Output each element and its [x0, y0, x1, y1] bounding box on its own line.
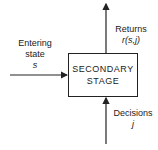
input-label-line1: Entering — [12, 38, 58, 49]
box-line1: SECONDARY — [72, 63, 133, 75]
output-label-line1: Returns — [108, 24, 154, 35]
input-label-line2: state — [12, 49, 58, 60]
decision-label: Decisions j — [108, 108, 158, 130]
decision-symbol: j — [108, 119, 158, 130]
box-line2: STAGE — [87, 75, 119, 87]
input-symbol: s — [12, 60, 58, 71]
secondary-stage-box: SECONDARY STAGE — [68, 53, 138, 97]
input-label: Entering state s — [12, 38, 58, 71]
decision-label-line1: Decisions — [108, 108, 158, 119]
output-symbol: r(s,j) — [108, 35, 154, 46]
output-label: Returns r(s,j) — [108, 24, 154, 46]
